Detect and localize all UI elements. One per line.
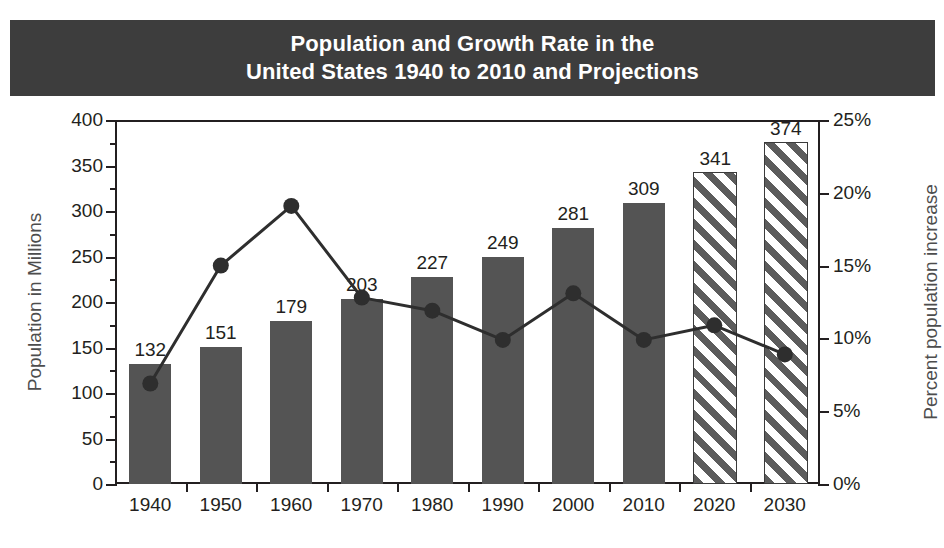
x-axis-label: 1950	[200, 494, 242, 516]
x-axis-tick	[186, 482, 188, 492]
x-axis-tick	[397, 482, 399, 492]
chart-title-banner: Population and Growth Rate in the United…	[10, 20, 935, 96]
bar: 374	[764, 142, 808, 484]
chart-title-line-2: United States 1940 to 2010 and Projectio…	[246, 58, 699, 86]
x-axis-tick	[327, 482, 329, 492]
y-axis-left-tick	[106, 257, 117, 259]
y-axis-left-minor-tick	[110, 279, 117, 281]
y-axis-left-minor-tick	[110, 188, 117, 190]
y-axis-left-minor-tick	[110, 325, 117, 327]
y-axis-right-label: 20%	[833, 182, 871, 204]
y-axis-left-label: 100	[57, 382, 103, 404]
y-axis-left-tick	[106, 484, 117, 486]
x-axis-label: 1970	[341, 494, 383, 516]
y-axis-left-label: 300	[57, 200, 103, 222]
y-axis-left-minor-tick	[110, 461, 117, 463]
y-axis-left-tick	[106, 302, 117, 304]
y-axis-right-label: 25%	[833, 109, 871, 131]
bar: 227	[411, 277, 453, 484]
y-axis-right-label: 15%	[833, 255, 871, 277]
y-axis-left-minor-tick	[110, 416, 117, 418]
x-axis-tick	[750, 482, 752, 492]
y-axis-left-label: 350	[57, 155, 103, 177]
x-axis-label: 2010	[623, 494, 665, 516]
bar: 341	[693, 172, 737, 484]
x-axis-tick	[609, 482, 611, 492]
chart-title: Population and Growth Rate in the United…	[246, 30, 699, 86]
x-axis-label: 1980	[411, 494, 453, 516]
bar: 151	[200, 347, 242, 484]
plot-top-border	[115, 120, 820, 122]
y-axis-left-label: 0	[57, 473, 103, 495]
bar: 203	[341, 299, 383, 484]
x-axis-label: 2000	[552, 494, 594, 516]
x-axis-label: 1940	[129, 494, 171, 516]
bar-value-label: 249	[487, 232, 519, 254]
y-axis-left-tick	[106, 439, 117, 441]
y-axis-title-left: Population in Millions	[22, 120, 48, 484]
y-axis-left-label: 250	[57, 246, 103, 268]
y-axis-left-label: 400	[57, 109, 103, 131]
y-axis-left-label: 50	[57, 428, 103, 450]
y-axis-left-tick	[106, 393, 117, 395]
bar: 179	[270, 321, 312, 484]
y-axis-left-label: 200	[57, 291, 103, 313]
bar-value-label: 179	[275, 296, 307, 318]
y-axis-left-label: 150	[57, 337, 103, 359]
line-marker	[213, 258, 229, 274]
bar: 281	[552, 228, 594, 484]
y-axis-left-tick	[106, 120, 117, 122]
y-axis-right-tick	[818, 484, 829, 486]
y-axis-left-minor-tick	[110, 370, 117, 372]
bar: 309	[623, 203, 665, 484]
y-axis-right-label: 0%	[833, 473, 860, 495]
x-axis-label: 1990	[482, 494, 524, 516]
line-marker	[283, 198, 299, 214]
y-axis-title-right: Percent population increase	[918, 120, 944, 484]
bar-value-label: 341	[699, 148, 731, 170]
y-axis-left-minor-tick	[110, 234, 117, 236]
bar-value-label: 281	[557, 203, 589, 225]
bar-value-label: 309	[628, 178, 660, 200]
chart-container: Population in Millions Percent populatio…	[0, 96, 944, 548]
y-axis-right-tick	[818, 338, 829, 340]
bar-value-label: 203	[346, 274, 378, 296]
y-axis-right-tick	[818, 266, 829, 268]
y-axis-right-line	[818, 120, 820, 484]
x-axis-label: 1960	[270, 494, 312, 516]
x-axis-tick	[468, 482, 470, 492]
x-axis-label: 2020	[693, 494, 735, 516]
plot-area: 050100150200250300350400 0%5%10%15%20%25…	[115, 120, 820, 484]
y-axis-left-tick	[106, 211, 117, 213]
y-axis-left-minor-tick	[110, 143, 117, 145]
y-axis-right-label: 5%	[833, 400, 860, 422]
y-axis-left-tick	[106, 166, 117, 168]
y-axis-right-tick	[818, 193, 829, 195]
chart-title-line-1: Population and Growth Rate in the	[246, 30, 699, 58]
bar-value-label: 132	[134, 339, 166, 361]
x-axis-tick	[256, 482, 258, 492]
y-axis-right-label: 10%	[833, 327, 871, 349]
bar: 132	[129, 364, 171, 484]
bar-value-label: 151	[205, 322, 237, 344]
bar-value-label: 374	[770, 118, 802, 140]
y-axis-right-tick	[818, 120, 829, 122]
bar-value-label: 227	[416, 252, 448, 274]
x-axis-tick	[538, 482, 540, 492]
y-axis-right-tick	[818, 411, 829, 413]
x-axis-tick	[679, 482, 681, 492]
bar: 249	[482, 257, 524, 484]
x-axis-label: 2030	[764, 494, 806, 516]
y-axis-left-tick	[106, 348, 117, 350]
percent-increase-line	[150, 206, 785, 384]
